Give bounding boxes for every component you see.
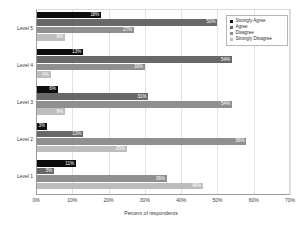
bar-value-label: 4% xyxy=(42,72,48,77)
bar-value-label: 27% xyxy=(123,28,132,33)
bar-value-label: 8% xyxy=(57,109,63,114)
bar-value-label: 6% xyxy=(49,87,55,92)
x-tick-label: 0% xyxy=(32,197,39,203)
legend-item[interactable]: Agree xyxy=(230,25,285,30)
bar-value-label: 36% xyxy=(156,176,165,181)
y-tick-label: Level 4 xyxy=(0,62,33,68)
bar: 5% xyxy=(36,168,54,175)
survey-bar-chart: 18%50%27%8%13%54%30%4%6%31%54%8%3%13%58%… xyxy=(0,0,302,228)
x-tick-label: 70% xyxy=(285,197,295,203)
bar-value-label: 58% xyxy=(236,139,245,144)
legend-label: Disagree xyxy=(235,31,253,36)
bar: 58% xyxy=(36,138,246,145)
bar: 13% xyxy=(36,131,83,138)
y-tick-label: Level 2 xyxy=(0,136,33,142)
x-tick-label: 60% xyxy=(249,197,259,203)
bar: 46% xyxy=(36,183,203,190)
bar: 25% xyxy=(36,146,127,153)
legend-item[interactable]: Strongly Disagree xyxy=(230,37,285,42)
gridline xyxy=(290,9,291,195)
bar: 31% xyxy=(36,93,148,100)
legend-swatch-icon xyxy=(230,20,233,23)
bar: 36% xyxy=(36,175,167,182)
y-tick-label: Level 5 xyxy=(0,25,33,31)
bar: 30% xyxy=(36,64,145,71)
bar: 8% xyxy=(36,34,65,41)
bar: 54% xyxy=(36,101,232,108)
bar: 11% xyxy=(36,160,76,167)
bar-value-label: 31% xyxy=(138,94,147,99)
bar-value-label: 13% xyxy=(72,132,81,137)
x-tick-label: 10% xyxy=(67,197,77,203)
bar: 13% xyxy=(36,49,83,56)
bar-value-label: 54% xyxy=(221,102,230,107)
x-tick-label: 20% xyxy=(104,197,114,203)
legend-label: Strongly Agree xyxy=(235,19,265,24)
bar-value-label: 5% xyxy=(46,169,52,174)
bar: 18% xyxy=(36,12,101,19)
legend-item[interactable]: Strongly Agree xyxy=(230,19,285,24)
bar-value-label: 13% xyxy=(72,50,81,55)
bar-value-label: 8% xyxy=(57,35,63,40)
legend-label: Agree xyxy=(235,25,247,30)
bar: 8% xyxy=(36,108,65,115)
legend-label: Strongly Disagree xyxy=(235,37,272,42)
x-tick-label: 50% xyxy=(212,197,222,203)
bar: 6% xyxy=(36,86,58,93)
legend-swatch-icon xyxy=(230,38,233,41)
x-axis-title: Percent of respondents xyxy=(0,210,302,216)
chart-legend: Strongly AgreeAgreeDisagreeStrongly Disa… xyxy=(226,15,288,46)
bar-value-label: 50% xyxy=(207,20,216,25)
x-tick-label: 30% xyxy=(140,197,150,203)
x-tick-label: 40% xyxy=(176,197,186,203)
bar-value-label: 3% xyxy=(38,124,44,129)
bar: 27% xyxy=(36,27,134,34)
legend-swatch-icon xyxy=(230,32,233,35)
bar-value-label: 46% xyxy=(192,184,201,189)
bar: 54% xyxy=(36,56,232,63)
bar: 3% xyxy=(36,123,47,130)
legend-swatch-icon xyxy=(230,26,233,29)
bar-value-label: 54% xyxy=(221,57,230,62)
bar-value-label: 30% xyxy=(134,65,143,70)
y-tick-label: Level 3 xyxy=(0,99,33,105)
bar-value-label: 18% xyxy=(90,13,99,18)
bar-value-label: 11% xyxy=(65,161,74,166)
legend-item[interactable]: Disagree xyxy=(230,31,285,36)
bar: 50% xyxy=(36,19,217,26)
bar: 4% xyxy=(36,71,51,78)
bar-value-label: 25% xyxy=(116,147,125,152)
y-tick-label: Level 1 xyxy=(0,173,33,179)
